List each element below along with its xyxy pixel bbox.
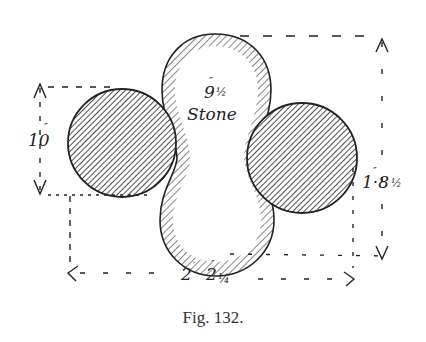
right-height-fraction: ½ <box>391 177 402 190</box>
stone-size-fraction: ½ <box>216 86 227 99</box>
stone-name: Stone <box>187 104 237 124</box>
bottom-width-fraction: ¼ <box>218 272 230 286</box>
left-height-value: 10 <box>28 130 50 150</box>
figure-132-diagram: ″ 9 ½ Stone ″ 10 ″ 1·8 ½ 2 ′ 2 ″ ¼ Fig. … <box>0 0 426 342</box>
left-ball <box>68 89 176 197</box>
bottom-width-inch-mark: ″ <box>211 258 215 269</box>
right-ball <box>247 103 357 213</box>
bottom-width-feet: 2 <box>180 264 192 284</box>
stone-size-whole: 9 <box>204 82 215 102</box>
arrow-left-icon <box>68 266 78 281</box>
figure-caption: Fig. 132. <box>183 308 244 327</box>
arrow-down-icon <box>376 246 388 259</box>
arrow-right-icon <box>344 272 354 286</box>
right-height-value: 1·8 <box>362 172 389 192</box>
